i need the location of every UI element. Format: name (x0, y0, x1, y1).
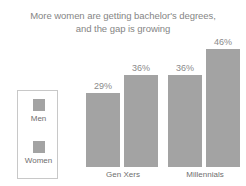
legend-item-men: Men (18, 99, 59, 124)
bar-value-millennials-women: 46% (202, 37, 244, 48)
bar-slot-gen-xers-women: 36% (124, 34, 158, 167)
category-axis: Gen Xers Millennials (82, 169, 246, 183)
bar-millennials-women (206, 49, 240, 167)
legend-label-men: Men (18, 114, 59, 124)
legend-label-women: Women (18, 156, 59, 166)
bar-slot-millennials-women: 46% (206, 34, 240, 167)
plot-area: 29% 36% 36% 46% (82, 34, 246, 167)
bar-group-millennials: 36% 46% (168, 34, 242, 167)
bar-value-millennials-men: 36% (164, 63, 206, 74)
chart-legend: Men Women (17, 90, 58, 179)
bar-gen-xers-women (124, 75, 158, 167)
chart-title-line-1: More women are getting bachelor's degree… (0, 9, 246, 22)
category-label-millennials: Millennials (168, 169, 242, 180)
bar-value-gen-xers-men: 29% (82, 81, 124, 92)
bar-slot-gen-xers-men: 29% (86, 34, 120, 167)
bar-slot-millennials-men: 36% (168, 34, 202, 167)
chart-title: More women are getting bachelor's degree… (0, 9, 246, 35)
legend-swatch-women (33, 141, 45, 153)
bar-chart: More women are getting bachelor's degree… (0, 0, 246, 186)
bar-millennials-men (168, 75, 202, 167)
legend-item-women: Women (18, 141, 59, 166)
bar-value-gen-xers-women: 36% (120, 63, 162, 74)
legend-swatch-men (33, 99, 45, 111)
bar-gen-xers-men (86, 93, 120, 167)
category-label-gen-xers: Gen Xers (86, 169, 160, 180)
bar-group-gen-xers: 29% 36% (86, 34, 160, 167)
